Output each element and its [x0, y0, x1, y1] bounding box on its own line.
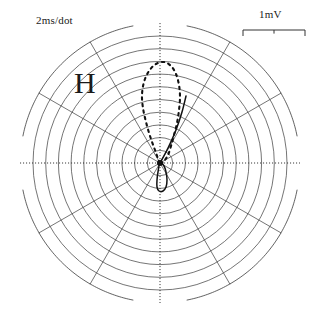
plane-label: H [74, 68, 96, 98]
qrs-loop-dashed [142, 62, 180, 164]
vcg-plot-canvas [0, 0, 319, 335]
polar-spoke [160, 93, 281, 163]
polar-spoke [90, 42, 160, 163]
polar-spoke [160, 163, 281, 233]
vcg-figure: 2ms/dot 1mV H [0, 0, 319, 335]
time-scale-label: 2ms/dot [36, 14, 73, 26]
polar-spoke [39, 163, 160, 233]
polar-spoke [90, 163, 160, 284]
loop-origin-marker [157, 160, 163, 166]
polar-spoke [160, 163, 230, 284]
t-loop-solid [157, 163, 167, 192]
voltage-scale-label: 1mV [259, 8, 282, 20]
voltage-scale-bar [243, 30, 305, 36]
loop-entry-limbs [160, 96, 186, 163]
